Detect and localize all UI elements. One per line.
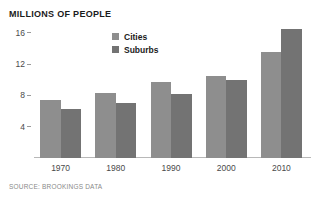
y-axis-tick: 8: [20, 90, 34, 100]
bar-group: [261, 20, 302, 158]
plot-area: 161284: [34, 20, 310, 158]
y-axis-tick-label: 16: [16, 28, 25, 38]
bar-cities-1980: [95, 93, 116, 158]
x-axis-tick-label: 1980: [106, 163, 125, 173]
y-axis-tick-mark-icon: [27, 64, 31, 65]
bar-group: [40, 20, 81, 158]
bar-group: [206, 20, 247, 158]
bar-group: [95, 20, 136, 158]
chart-figure: MILLIONS OF PEOPLE Cities Suburbs 161284…: [0, 0, 326, 198]
y-axis-tick: 4: [20, 122, 34, 132]
y-axis-tick-label: 12: [16, 59, 25, 69]
y-axis-tick-mark-icon: [27, 32, 31, 33]
y-axis-tick: 16: [16, 28, 34, 38]
x-axis-tick-label: 1990: [162, 163, 181, 173]
y-axis-tick-mark-icon: [27, 126, 31, 127]
y-axis-tick-mark-icon: [27, 95, 31, 96]
y-axis-tick: 12: [16, 59, 34, 69]
bar-cities-1990: [151, 82, 172, 158]
bar-suburbs-2000: [226, 80, 247, 158]
chart-title: MILLIONS OF PEOPLE: [9, 9, 111, 19]
source-note: SOURCE: BROOKINGS DATA: [9, 183, 102, 190]
bar-suburbs-2010: [281, 29, 302, 158]
x-axis-tick-label: 1970: [51, 163, 70, 173]
bar-suburbs-1970: [61, 109, 82, 158]
bar-cities-2010: [261, 52, 282, 158]
x-axis-tick-label: 2010: [272, 163, 291, 173]
y-axis-tick-label: 8: [20, 90, 25, 100]
bar-suburbs-1980: [116, 103, 137, 158]
bar-suburbs-1990: [171, 94, 192, 158]
bar-cities-2000: [206, 76, 227, 158]
y-axis-tick-label: 4: [20, 122, 25, 132]
bar-cities-1970: [40, 100, 61, 158]
bar-group: [151, 20, 192, 158]
x-axis-tick-label: 2000: [217, 163, 236, 173]
